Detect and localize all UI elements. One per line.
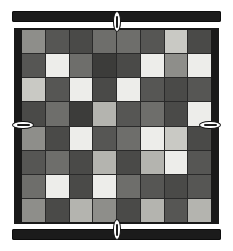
tile-r2-c1[interactable]	[22, 54, 45, 77]
tile-r1-c8[interactable]	[188, 30, 211, 53]
tile-r3-c6[interactable]	[141, 78, 164, 101]
tile-r5-c2[interactable]	[46, 127, 69, 150]
clip-left-icon[interactable]	[12, 121, 34, 129]
tile-r4-c5[interactable]	[117, 102, 140, 125]
clip-top-icon[interactable]	[113, 11, 121, 32]
tile-r5-c6[interactable]	[141, 127, 164, 150]
tile-r6-c2[interactable]	[46, 151, 69, 174]
tile-r1-c6[interactable]	[141, 30, 164, 53]
tile-r2-c5[interactable]	[117, 54, 140, 77]
tile-r1-c5[interactable]	[117, 30, 140, 53]
tile-r7-c8[interactable]	[188, 175, 211, 198]
board-scene	[0, 0, 233, 251]
tile-grid[interactable]	[22, 30, 211, 222]
tile-r4-c4[interactable]	[93, 102, 116, 125]
tile-r5-c7[interactable]	[165, 127, 188, 150]
tile-r3-c2[interactable]	[46, 78, 69, 101]
clip-right-icon[interactable]	[199, 121, 221, 129]
tile-r5-c8[interactable]	[188, 127, 211, 150]
tile-r4-c2[interactable]	[46, 102, 69, 125]
tile-r1-c3[interactable]	[70, 30, 93, 53]
tile-r7-c2[interactable]	[46, 175, 69, 198]
tile-r7-c6[interactable]	[141, 175, 164, 198]
tile-r2-c2[interactable]	[46, 54, 69, 77]
tile-r6-c7[interactable]	[165, 151, 188, 174]
tile-r6-c8[interactable]	[188, 151, 211, 174]
tile-r3-c5[interactable]	[117, 78, 140, 101]
tile-r2-c8[interactable]	[188, 54, 211, 77]
tile-r7-c1[interactable]	[22, 175, 45, 198]
tile-r3-c4[interactable]	[93, 78, 116, 101]
tile-r7-c4[interactable]	[93, 175, 116, 198]
tile-r1-c1[interactable]	[22, 30, 45, 53]
tile-r8-c5[interactable]	[117, 199, 140, 222]
tile-r6-c3[interactable]	[70, 151, 93, 174]
tile-r2-c4[interactable]	[93, 54, 116, 77]
tile-r3-c8[interactable]	[188, 78, 211, 101]
tile-r5-c3[interactable]	[70, 127, 93, 150]
tile-r1-c7[interactable]	[165, 30, 188, 53]
tile-r1-c4[interactable]	[93, 30, 116, 53]
tile-r3-c3[interactable]	[70, 78, 93, 101]
tile-r7-c5[interactable]	[117, 175, 140, 198]
tile-r2-c3[interactable]	[70, 54, 93, 77]
tile-r7-c3[interactable]	[70, 175, 93, 198]
tile-r8-c7[interactable]	[165, 199, 188, 222]
tile-r8-c6[interactable]	[141, 199, 164, 222]
tile-r3-c1[interactable]	[22, 78, 45, 101]
tile-r2-c7[interactable]	[165, 54, 188, 77]
tile-r5-c5[interactable]	[117, 127, 140, 150]
tile-r4-c7[interactable]	[165, 102, 188, 125]
tile-r8-c1[interactable]	[22, 199, 45, 222]
tile-r3-c7[interactable]	[165, 78, 188, 101]
tile-r5-c4[interactable]	[93, 127, 116, 150]
tile-r8-c3[interactable]	[70, 199, 93, 222]
tile-r8-c2[interactable]	[46, 199, 69, 222]
tile-r8-c4[interactable]	[93, 199, 116, 222]
tile-r2-c6[interactable]	[141, 54, 164, 77]
tile-r6-c1[interactable]	[22, 151, 45, 174]
tile-r5-c1[interactable]	[22, 127, 45, 150]
tile-r6-c5[interactable]	[117, 151, 140, 174]
tile-r4-c6[interactable]	[141, 102, 164, 125]
tile-r6-c4[interactable]	[93, 151, 116, 174]
tile-r6-c6[interactable]	[141, 151, 164, 174]
tile-r4-c3[interactable]	[70, 102, 93, 125]
tile-r1-c2[interactable]	[46, 30, 69, 53]
tile-r7-c7[interactable]	[165, 175, 188, 198]
clip-bottom-icon[interactable]	[113, 219, 121, 240]
tile-r8-c8[interactable]	[188, 199, 211, 222]
